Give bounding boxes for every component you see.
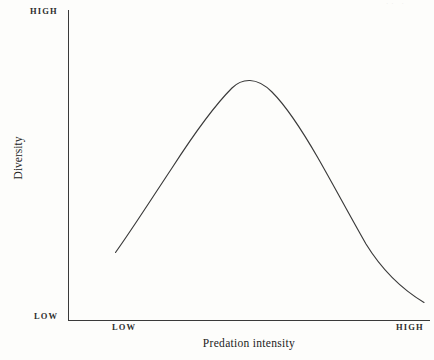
- chart-figure: ·· · HIGH LOW LOW HIGH Diversity Predati…: [0, 0, 434, 360]
- y-axis-title: Diversity: [12, 123, 24, 193]
- x-axis-label-low: LOW: [112, 322, 136, 332]
- x-axis-label-high: HIGH: [396, 322, 424, 332]
- diversity-curve-svg: [0, 0, 434, 360]
- diversity-curve-path: [116, 80, 425, 302]
- x-axis-title: Predation intensity: [68, 337, 430, 349]
- y-axis-label-low: LOW: [34, 311, 58, 321]
- y-axis-label-high: HIGH: [30, 6, 58, 16]
